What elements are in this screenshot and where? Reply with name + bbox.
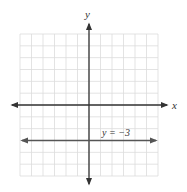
y-axis-label: y xyxy=(84,8,90,20)
line-label: y = −3 xyxy=(101,127,130,138)
x-axis-label: x xyxy=(171,99,177,111)
coordinate-plane: y x y = −3 xyxy=(0,0,187,192)
